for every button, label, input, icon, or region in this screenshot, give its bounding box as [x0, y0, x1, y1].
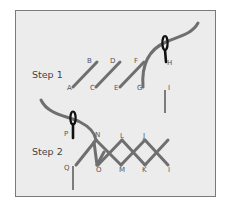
- point-label-c: C: [90, 84, 95, 92]
- point-label-h: H: [167, 59, 172, 67]
- point-label-f: F: [134, 57, 138, 65]
- step1-label: Step 1: [32, 69, 63, 80]
- stitch-n-o: [94, 142, 97, 165]
- step2-needle: [70, 112, 75, 139]
- point-label-n: N: [95, 131, 100, 139]
- point-label-o: O: [96, 166, 102, 174]
- step2-label: Step 2: [32, 146, 63, 157]
- point-label-i-step1: I: [168, 84, 170, 92]
- step1-thread: [143, 23, 198, 87]
- point-label-p: P: [64, 130, 68, 138]
- point-label-a: A: [67, 84, 72, 92]
- step1-group: Step 1 B D F A C E G H I: [32, 23, 198, 113]
- point-label-q: Q: [64, 164, 70, 172]
- step2-thread: [41, 100, 96, 140]
- point-label-g: G: [137, 84, 142, 92]
- point-label-k: K: [142, 166, 147, 174]
- step1-stitches: [73, 23, 198, 87]
- point-label-b: B: [87, 57, 92, 65]
- point-label-e: E: [114, 84, 118, 92]
- needle-shaft-icon: [165, 50, 166, 62]
- point-label-d: D: [110, 57, 115, 65]
- point-label-i-step2: I: [168, 166, 170, 174]
- point-label-j: J: [142, 132, 145, 140]
- point-label-l: L: [120, 132, 124, 140]
- step2-group: Step 2 P N L J Q O M K: [32, 100, 170, 190]
- stitch-diagram: Step 1 B D F A C E G H I Step 2: [0, 0, 230, 211]
- point-label-m: M: [119, 166, 125, 174]
